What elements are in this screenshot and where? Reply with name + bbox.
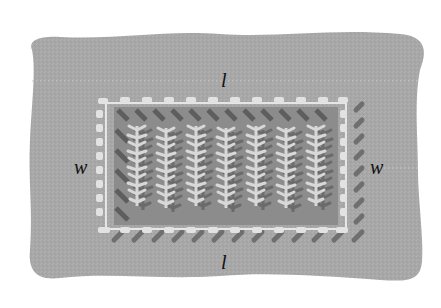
- width-label-left: w: [74, 157, 87, 177]
- length-label-bottom: l: [221, 252, 227, 272]
- width-label-right: w: [370, 157, 383, 177]
- length-label-top: l: [221, 70, 227, 90]
- garden-diagram: l l w w: [0, 0, 441, 308]
